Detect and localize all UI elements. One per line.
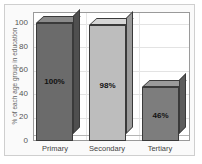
bar-value-label: 98% — [89, 81, 126, 90]
bar-tertiary: 46% — [142, 87, 179, 141]
vertical-gridline — [139, 13, 140, 140]
y-tick-40: 40 — [8, 90, 28, 98]
bar-primary: 100% — [36, 23, 73, 141]
y-tick-100: 100 — [8, 19, 28, 27]
bar-side-face — [179, 73, 186, 134]
y-tick-60: 60 — [8, 66, 28, 74]
bar-secondary: 98% — [89, 25, 126, 141]
y-tick-20: 20 — [8, 113, 28, 121]
y-tick-80: 80 — [8, 43, 28, 51]
bar-value-label: 100% — [36, 77, 73, 86]
x-label-primary: Primary — [30, 144, 80, 153]
y-tick-0: 0 — [8, 137, 28, 145]
x-label-tertiary: Tertiary — [135, 144, 185, 153]
vertical-gridline — [86, 13, 87, 140]
x-label-secondary: Secondary — [82, 144, 132, 153]
bar-side-face — [126, 11, 133, 134]
bar-side-face — [73, 9, 80, 134]
bar-value-label: 46% — [142, 111, 179, 120]
